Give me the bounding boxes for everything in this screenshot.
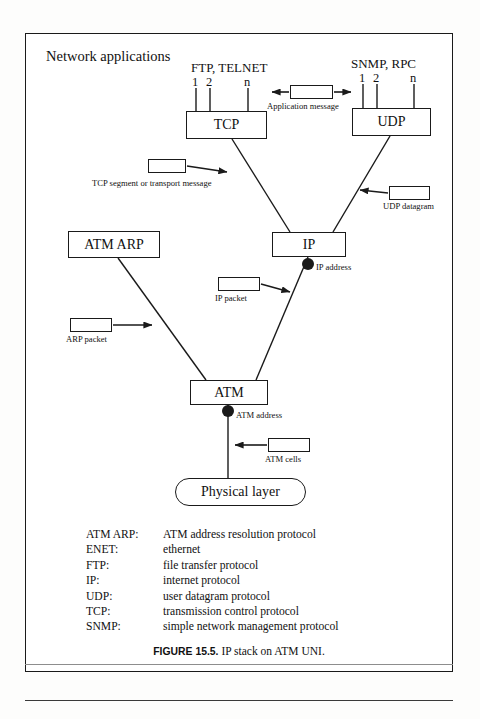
- page-bottom-rule: [25, 700, 453, 701]
- legend-definition: simple network management protocol: [163, 620, 338, 633]
- caption-rule: [25, 664, 453, 665]
- callout-label-udp-datagram: UDP datagram: [383, 201, 434, 211]
- protocol-box-physical-layer: Physical layer: [175, 478, 306, 506]
- legend-definition: file transfer protocol: [163, 559, 338, 572]
- figure-page: Network applications FTP, TELNET 1 2 n S…: [0, 0, 480, 719]
- callout-box-ip-packet: [218, 277, 260, 291]
- legend-definition: ATM address resolution protocol: [163, 528, 338, 541]
- tcp-port-n-label: n: [244, 76, 250, 89]
- callout-label-ip-packet: IP packet: [215, 293, 247, 303]
- figure-caption: FIGURE 15.5. IP stack on ATM UNI.: [25, 645, 453, 657]
- arrow-tcp-segment: [187, 166, 227, 172]
- tcp-port-1-label: 1: [192, 76, 198, 89]
- callout-box-arp-packet: [70, 318, 112, 332]
- legend-term: ATM ARP:: [86, 528, 163, 541]
- tcp-apps-label: FTP, TELNET: [191, 61, 267, 74]
- legend-row: TCP: transmission control protocol: [86, 605, 338, 620]
- callout-label-atm-cells: ATM cells: [265, 454, 301, 464]
- ip-address-dot: [302, 258, 314, 270]
- legend-row: UDP: user datagram protocol: [86, 590, 338, 605]
- callout-label-arp-packet: ARP packet: [66, 334, 107, 344]
- legend-term: SNMP:: [86, 620, 163, 633]
- link-ip-atm: [256, 257, 308, 380]
- protocol-box-udp: UDP: [352, 108, 431, 136]
- callout-box-atm-cells: [268, 438, 310, 452]
- legend-row: SNMP: simple network management protocol: [86, 620, 338, 635]
- figure-number: FIGURE 15.5.: [153, 646, 218, 657]
- callout-box-udp-datagram: [389, 186, 430, 200]
- atm-address-label: ATM address: [236, 410, 282, 420]
- legend-term: IP:: [86, 574, 163, 587]
- ip-address-label: IP address: [316, 262, 351, 272]
- link-atmarp-atm: [118, 258, 206, 380]
- link-udp-ip: [333, 136, 390, 232]
- legend-term: FTP:: [86, 559, 163, 572]
- protocol-box-atm-arp: ATM ARP: [68, 231, 160, 258]
- atm-address-dot: [222, 405, 234, 417]
- legend-definition: ethernet: [163, 543, 338, 556]
- arrow-udp-datagram: [360, 190, 388, 193]
- legend-term: UDP:: [86, 590, 163, 603]
- figure-caption-text: IP stack on ATM UNI.: [221, 645, 324, 657]
- callout-label-tcp-segment: TCP segment or transport message: [92, 178, 212, 188]
- protocol-box-tcp: TCP: [186, 111, 267, 139]
- udp-port-n-label: n: [410, 72, 416, 85]
- callout-box-tcp-segment: [148, 159, 186, 173]
- network-applications-label: Network applications: [46, 49, 170, 64]
- legend-term: TCP:: [86, 605, 163, 618]
- legend-term: ENET:: [86, 543, 163, 556]
- abbreviation-legend: ATM ARP: ATM address resolution protocol…: [86, 528, 338, 636]
- legend-row: ENET: ethernet: [86, 543, 338, 558]
- legend-row: IP: internet protocol: [86, 574, 338, 589]
- udp-port-1-label: 1: [359, 72, 365, 85]
- legend-row: FTP: file transfer protocol: [86, 559, 338, 574]
- udp-apps-label: SNMP, RPC: [351, 57, 416, 70]
- tcp-port-2-label: 2: [206, 76, 212, 89]
- protocol-box-ip: IP: [272, 232, 346, 257]
- legend-definition: internet protocol: [163, 574, 338, 587]
- link-tcp-ip: [232, 139, 290, 232]
- callout-box-application-message: [290, 85, 333, 99]
- legend-definition: transmission control protocol: [163, 605, 338, 618]
- arrow-ip-packet: [261, 284, 290, 292]
- legend-row: ATM ARP: ATM address resolution protocol: [86, 528, 338, 543]
- protocol-box-atm: ATM: [190, 380, 268, 405]
- udp-port-2-label: 2: [373, 72, 379, 85]
- callout-label-application-message: Application message: [267, 101, 339, 111]
- legend-definition: user datagram protocol: [163, 590, 338, 603]
